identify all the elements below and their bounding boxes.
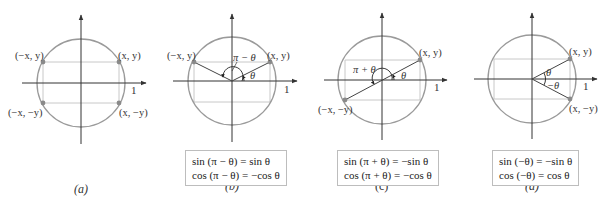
point-label-neg-x-y: (−x, y) <box>15 50 44 62</box>
tick-label-one: 1 <box>284 83 290 95</box>
identity-sin: sin (−θ) = −sin θ <box>499 154 572 168</box>
point-label-x-y: (x, y) <box>569 46 592 58</box>
point-label-neg-x-y: (−x, y) <box>167 50 196 62</box>
identity-box-d: sin (−θ) = −sin θ cos (−θ) = cos θ <box>492 150 579 186</box>
point-label-x-y: (x, y) <box>419 47 442 59</box>
angle-label-neg-theta: −θ <box>547 80 559 91</box>
identity-cos: cos (π − θ) = −cos θ <box>192 168 280 182</box>
identity-sin: sin (π − θ) = sin θ <box>192 154 280 168</box>
tick-label-one: 1 <box>583 80 589 92</box>
angle-label-theta: θ <box>401 70 406 81</box>
identity-cos: cos (−θ) = cos θ <box>499 168 572 182</box>
point-label-x-y: (x, y) <box>267 50 290 62</box>
point-label-neg-x-neg-y: (−x, −y) <box>318 104 353 116</box>
identity-box-b: sin (π − θ) = sin θ cos (π − θ) = −cos θ <box>185 150 287 186</box>
angle-label-theta: θ <box>250 70 255 81</box>
angle-arc-theta <box>393 75 394 80</box>
identity-cos: cos (π + θ) = −cos θ <box>344 168 432 182</box>
panel-caption-a: (a) <box>74 182 88 196</box>
point-label-neg-x-neg-y: (−x, −y) <box>8 107 43 119</box>
point-label-x-neg-y: (x, −y) <box>569 103 598 115</box>
panel-a: (−x, y) (x, y) (−x, −y) (x, −y) 1 (a) <box>8 15 148 196</box>
angle-label-theta: θ <box>546 67 551 78</box>
point-label-x-neg-y: (x, −y) <box>119 107 148 119</box>
angle-label-pi-plus-theta: π + θ <box>353 64 376 75</box>
identity-box-c: sin (π + θ) = −sin θ cos (π + θ) = −cos … <box>337 150 439 186</box>
tick-label-one: 1 <box>131 84 137 96</box>
angle-label-pi-minus-theta: π − θ <box>233 52 256 63</box>
identity-sin: sin (π + θ) = −sin θ <box>344 154 432 168</box>
tick-label-one: 1 <box>434 81 440 93</box>
point-label-x-y: (x, y) <box>118 50 141 62</box>
